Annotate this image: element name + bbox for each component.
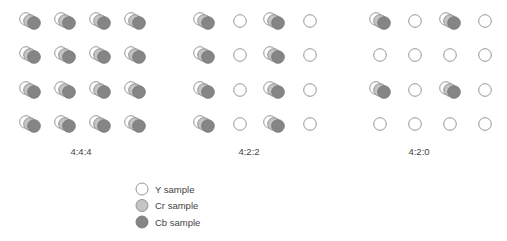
ycbcr-sample	[264, 13, 285, 30]
y-sample-icon	[374, 49, 387, 62]
ycbcr-sample	[20, 116, 41, 133]
y-only-sample	[409, 15, 422, 28]
y-sample-icon	[479, 49, 492, 62]
panel-label-422: 4:2:2	[238, 146, 259, 157]
ycbcr-sample	[194, 47, 215, 64]
ycbcr-sample	[20, 82, 41, 99]
cb-sample-icon	[28, 51, 41, 64]
y-only-sample	[304, 15, 317, 28]
y-sample-icon	[479, 84, 492, 97]
cb-sample-icon	[28, 17, 41, 30]
y-only-sample	[479, 118, 492, 131]
ycbcr-sample	[90, 116, 111, 133]
y-only-sample	[479, 15, 492, 28]
y-sample-icon	[409, 49, 422, 62]
y-sample-icon	[136, 183, 148, 195]
ycbcr-sample	[264, 116, 285, 133]
ycbcr-sample	[194, 116, 215, 133]
y-only-sample	[444, 118, 457, 131]
cb-sample-icon	[136, 216, 148, 228]
panel-420	[370, 13, 492, 131]
ycbcr-sample	[264, 47, 285, 64]
ycbcr-sample	[20, 47, 41, 64]
ycbcr-sample	[125, 47, 146, 64]
y-sample-icon	[234, 118, 247, 131]
y-only-sample	[479, 49, 492, 62]
cb-sample-icon	[133, 51, 146, 64]
cb-sample-icon	[272, 51, 285, 64]
y-sample-icon	[444, 118, 457, 131]
y-only-sample	[409, 49, 422, 62]
cb-sample-icon	[272, 17, 285, 30]
panel-422	[194, 13, 317, 133]
cb-sample-icon	[378, 17, 391, 30]
y-only-sample	[374, 49, 387, 62]
y-sample-icon	[304, 15, 317, 28]
ycbcr-sample	[125, 82, 146, 99]
y-only-sample	[374, 118, 387, 131]
ycbcr-sample	[90, 13, 111, 30]
legend: Y sample Cr sample Cb sample	[136, 183, 200, 228]
y-only-sample	[234, 15, 247, 28]
y-only-sample	[304, 49, 317, 62]
y-sample-icon	[234, 15, 247, 28]
legend-cb-label: Cb sample	[155, 217, 200, 228]
y-sample-icon	[409, 15, 422, 28]
ycbcr-sample	[370, 13, 391, 30]
legend-cr-label: Cr sample	[155, 200, 198, 211]
y-only-sample	[409, 84, 422, 97]
cr-sample-icon	[136, 200, 148, 212]
panel-label-444: 4:4:4	[70, 146, 91, 157]
y-sample-icon	[444, 49, 457, 62]
cb-sample-icon	[202, 86, 215, 99]
ycbcr-sample	[90, 82, 111, 99]
y-only-sample	[234, 118, 247, 131]
legend-y-label: Y sample	[155, 184, 194, 195]
cb-sample-icon	[133, 17, 146, 30]
ycbcr-sample	[264, 82, 285, 99]
cb-sample-icon	[448, 86, 461, 99]
cb-sample-icon	[98, 120, 111, 133]
y-sample-icon	[234, 49, 247, 62]
ycbcr-sample	[55, 13, 76, 30]
panel-label-420: 4:2:0	[408, 146, 429, 157]
ycbcr-sample	[440, 13, 461, 30]
y-sample-icon	[234, 84, 247, 97]
y-sample-icon	[304, 49, 317, 62]
ycbcr-sample	[370, 82, 391, 99]
ycbcr-sample	[55, 82, 76, 99]
cb-sample-icon	[28, 120, 41, 133]
cb-sample-icon	[28, 86, 41, 99]
ycbcr-sample	[194, 82, 215, 99]
y-only-sample	[304, 118, 317, 131]
y-only-sample	[304, 84, 317, 97]
cb-sample-icon	[63, 17, 76, 30]
y-sample-icon	[374, 118, 387, 131]
y-sample-icon	[409, 118, 422, 131]
panel-444	[20, 13, 146, 133]
y-sample-icon	[304, 118, 317, 131]
cb-sample-icon	[63, 120, 76, 133]
ycbcr-sample	[55, 47, 76, 64]
ycbcr-sample	[194, 13, 215, 30]
cb-sample-icon	[202, 120, 215, 133]
ycbcr-sample	[125, 13, 146, 30]
cb-sample-icon	[202, 51, 215, 64]
y-only-sample	[409, 118, 422, 131]
cb-sample-icon	[63, 51, 76, 64]
ycbcr-sample	[90, 47, 111, 64]
y-only-sample	[479, 84, 492, 97]
cb-sample-icon	[133, 120, 146, 133]
ycbcr-sample	[55, 116, 76, 133]
cb-sample-icon	[448, 17, 461, 30]
y-sample-icon	[479, 118, 492, 131]
ycbcr-sample	[20, 13, 41, 30]
cb-sample-icon	[63, 86, 76, 99]
chroma-subsampling-diagram: 4:4:4 4:2:2 4:2:0 Y sample Cr sample Cb …	[0, 0, 507, 241]
cb-sample-icon	[133, 86, 146, 99]
y-sample-icon	[409, 84, 422, 97]
cb-sample-icon	[202, 17, 215, 30]
cb-sample-icon	[272, 120, 285, 133]
sampling-panels	[20, 13, 492, 133]
cb-sample-icon	[378, 86, 391, 99]
